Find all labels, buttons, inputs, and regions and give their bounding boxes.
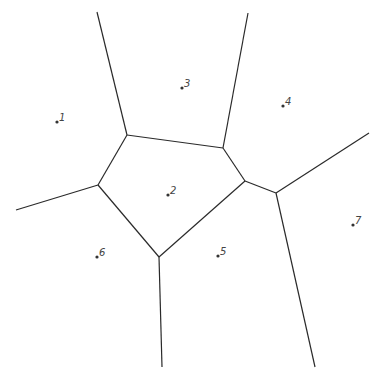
site-label: 1 [59,112,65,123]
site-label: 6 [99,247,105,258]
voronoi-edge [223,13,248,148]
site-point-6: 6 [95,247,105,259]
voronoi-edges [16,12,369,367]
site-point-4: 4 [281,96,291,108]
voronoi-edge [127,135,223,148]
voronoi-edge [16,185,98,210]
site-point-7: 7 [351,215,362,227]
site-point-5: 5 [216,246,226,258]
voronoi-edge [245,181,276,193]
voronoi-diagram: 1234567 [0,0,379,376]
voronoi-edge [97,12,127,135]
site-label: 3 [184,78,190,89]
voronoi-edge [276,133,369,193]
site-label: 2 [170,185,176,196]
voronoi-edge [159,257,162,367]
voronoi-sites: 1234567 [55,78,362,259]
voronoi-svg: 1234567 [0,0,379,376]
site-point-2: 2 [166,185,176,197]
voronoi-edge [223,148,245,181]
voronoi-edge [276,193,315,367]
voronoi-edge [98,185,159,257]
site-point-1: 1 [55,112,65,124]
voronoi-edge [98,135,127,185]
site-label: 7 [355,215,362,226]
site-label: 4 [285,96,291,107]
site-label: 5 [220,246,226,257]
site-point-3: 3 [180,78,190,90]
